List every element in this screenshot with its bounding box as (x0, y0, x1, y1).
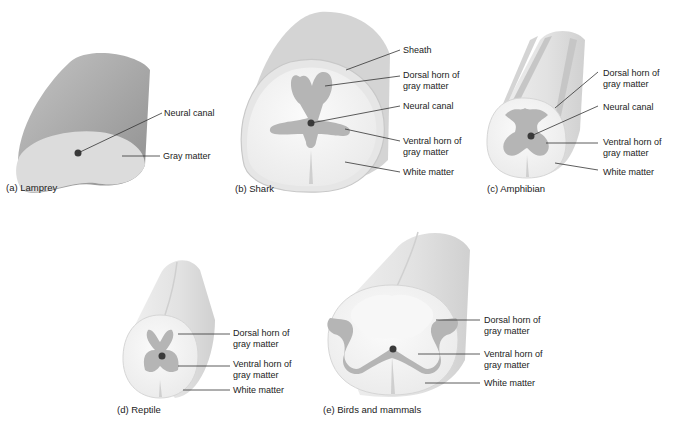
label-reptile-ventral-horn: Ventral horn of gray matter (233, 359, 292, 381)
label-amphibian-white-matter: White matter (603, 167, 654, 178)
label-lamprey-gray-matter: Gray matter (163, 151, 211, 162)
label-shark-sheath: Sheath (403, 45, 432, 56)
label-reptile-dorsal-horn: Dorsal horn of gray matter (233, 328, 290, 350)
lamprey-cord (16, 53, 150, 193)
caption-birds-mammals: (e) Birds and mammals (323, 404, 421, 415)
label-birds-ventral-horn: Ventral horn of gray matter (484, 349, 543, 371)
birds-mammals-cord (327, 232, 470, 397)
label-reptile-white-matter: White matter (233, 385, 284, 396)
spinal-cord-diagram (0, 0, 673, 425)
shark-cord (241, 12, 390, 192)
label-shark-dorsal-horn: Dorsal horn of gray matter (403, 70, 460, 92)
label-shark-neural-canal: Neural canal (403, 101, 454, 112)
label-birds-white-matter: White matter (484, 378, 535, 389)
amphibian-cord (487, 31, 585, 178)
label-lamprey-neural-canal: Neural canal (164, 108, 215, 119)
label-shark-ventral-horn: Ventral horn of gray matter (403, 136, 462, 158)
label-amphibian-ventral-horn: Ventral horn of gray matter (603, 137, 662, 159)
caption-reptile: (d) Reptile (117, 404, 161, 415)
label-amphibian-dorsal-horn: Dorsal horn of gray matter (603, 68, 660, 90)
caption-lamprey: (a) Lamprey (6, 182, 57, 193)
label-birds-dorsal-horn: Dorsal horn of gray matter (484, 315, 541, 337)
caption-amphibian: (c) Amphibian (487, 183, 545, 194)
caption-shark: (b) Shark (235, 183, 274, 194)
reptile-cord (123, 260, 215, 398)
label-amphibian-neural-canal: Neural canal (603, 102, 654, 113)
label-shark-white-matter: White matter (403, 167, 454, 178)
